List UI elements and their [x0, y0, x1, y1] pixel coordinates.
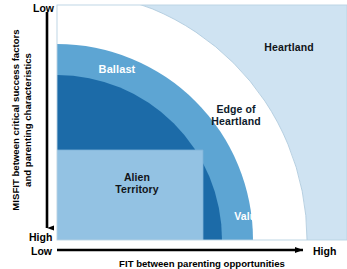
zone-label-edge-of-heartland: Edge of Heartland — [196, 104, 276, 128]
zone-label-heartland: Heartland — [248, 42, 330, 54]
x-axis-high-label: High — [313, 245, 336, 257]
zone-label-alien-territory: Alien Territory — [97, 172, 177, 196]
zone-label-ballast: Ballast — [77, 63, 157, 75]
y-axis-caption: MISFIT between critical success factors … — [10, 0, 34, 240]
y-axis-low-label: Low — [33, 2, 54, 14]
x-axis-caption: FIT between parenting opportunities — [57, 258, 347, 269]
x-axis-low-label: Low — [31, 245, 52, 257]
zone-label-value-trap: Value Trap — [218, 211, 304, 223]
